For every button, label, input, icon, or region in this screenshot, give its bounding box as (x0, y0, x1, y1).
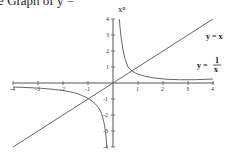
x-tick-label: 4 (211, 86, 214, 92)
y-tick-label: -4 (103, 144, 108, 150)
label-y-equals-1-over-x: y = 1 x (197, 56, 221, 74)
x-tick-label: -3 (35, 86, 40, 92)
y-tick-label: -2 (103, 112, 108, 118)
x-tick-label: 2 (161, 86, 164, 92)
y-tick-label: -1 (103, 96, 108, 102)
svg-text:x: x (214, 65, 218, 74)
y-tick-label: 4 (106, 16, 109, 22)
x-tick-label: 3 (186, 86, 189, 92)
y-tick-label: 2 (106, 48, 109, 54)
x-tick-label: 1 (136, 86, 139, 92)
y-tick-label: 1 (106, 64, 109, 70)
svg-text:1: 1 (215, 56, 219, 65)
svg-text:y =: y = (197, 61, 208, 70)
graph-plot: -4 -3 -2 -1 1 2 3 4 4 3 2 1 -1 -2 -3 -4 … (0, 0, 228, 152)
y-tick-label: 3 (106, 32, 109, 38)
x-tick-label: -1 (85, 86, 90, 92)
label-y-equals-x: y = x (206, 32, 223, 41)
